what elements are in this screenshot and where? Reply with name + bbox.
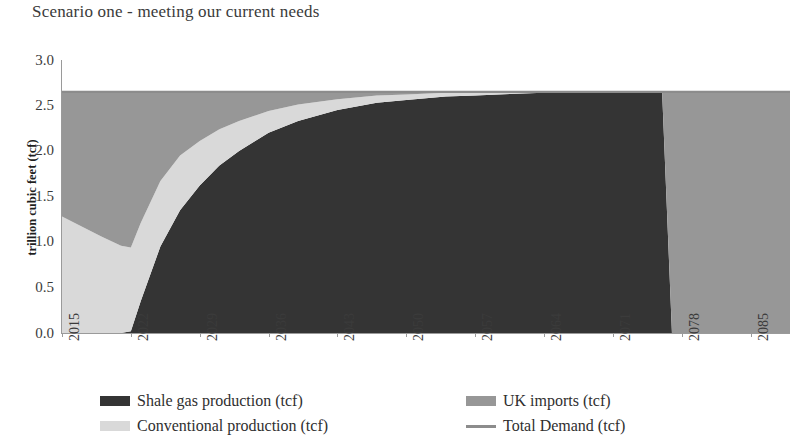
x-tick-label: 2057 (480, 313, 496, 341)
plot-area (62, 60, 790, 333)
legend-label: Conventional production (tcf) (137, 417, 328, 435)
x-tick-label: 2036 (274, 313, 290, 341)
legend-line-icon (466, 425, 496, 428)
x-tick-mark (751, 333, 752, 337)
x-tick-mark (269, 333, 270, 337)
legend-item-conventional-production: Conventional production (tcf) (100, 417, 328, 435)
y-tick-label: 2.0 (18, 143, 54, 158)
legend-label: Total Demand (tcf) (503, 417, 625, 435)
x-tick-mark (406, 333, 407, 337)
chart-figure: Scenario one - meeting our current needs… (0, 0, 795, 446)
legend-swatch-icon (100, 396, 130, 406)
x-tick-label: 2029 (205, 313, 221, 341)
x-tick-label: 2085 (756, 313, 772, 341)
x-tick-mark (337, 333, 338, 337)
y-axis-line (61, 60, 62, 334)
x-tick-mark (62, 333, 63, 337)
x-tick-mark (682, 333, 683, 337)
legend-swatch-icon (466, 396, 496, 406)
chart-title: Scenario one - meeting our current needs (32, 2, 319, 22)
y-tick-label: 2.5 (18, 98, 54, 113)
y-tick-label: 1.0 (18, 234, 54, 249)
legend-item-shale-gas-production: Shale gas production (tcf) (100, 392, 303, 410)
x-tick-label: 2071 (618, 313, 634, 341)
x-tick-label: 2050 (411, 313, 427, 341)
x-tick-mark (475, 333, 476, 337)
x-tick-label: 2064 (549, 313, 565, 341)
x-axis-tick-labels: 2015202220292036204320502057206420712078… (0, 333, 795, 393)
legend-item-total-demand: Total Demand (tcf) (466, 417, 625, 435)
chart-legend: Shale gas production (tcf) Conventional … (0, 392, 795, 446)
y-tick-label: 1.5 (18, 189, 54, 204)
stacked-area-plot (62, 60, 790, 333)
legend-swatch-icon (100, 421, 130, 431)
x-tick-label: 2078 (687, 313, 703, 341)
y-tick-label: 0.5 (18, 280, 54, 295)
x-tick-label: 2015 (67, 313, 83, 341)
x-tick-mark (200, 333, 201, 337)
legend-label: UK imports (tcf) (503, 392, 611, 410)
legend-label: Shale gas production (tcf) (137, 392, 303, 410)
x-tick-label: 2022 (136, 313, 152, 341)
legend-item-uk-imports: UK imports (tcf) (466, 392, 611, 410)
x-tick-label: 2043 (342, 313, 358, 341)
x-tick-mark (613, 333, 614, 337)
x-tick-mark (131, 333, 132, 337)
x-tick-mark (544, 333, 545, 337)
y-tick-label: 3.0 (18, 53, 54, 68)
